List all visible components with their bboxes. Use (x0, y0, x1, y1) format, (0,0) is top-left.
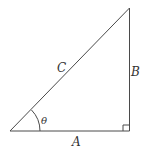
adjacent-label: A (71, 135, 81, 149)
hypotenuse-line (10, 8, 130, 131)
angle-label: θ (41, 115, 47, 126)
triangle (10, 8, 130, 131)
angle-arc (32, 110, 41, 131)
right-triangle-diagram: C B A θ (0, 0, 149, 152)
right-angle-marker (123, 125, 130, 131)
opposite-label: B (130, 65, 140, 79)
hypotenuse-label: C (57, 61, 66, 75)
